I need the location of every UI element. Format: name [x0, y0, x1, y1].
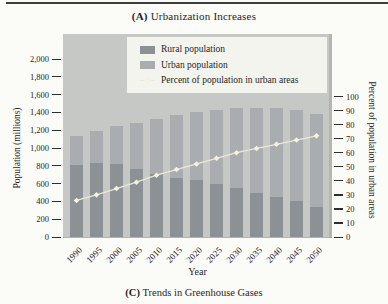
x-tick-label: 2015 — [164, 245, 184, 265]
y-axis-right-title: Percent of population in urban areas — [367, 81, 377, 218]
percent-line-marker — [134, 179, 140, 185]
legend-item-urban: Urban population — [140, 59, 327, 72]
x-tick-label: 2000 — [104, 245, 124, 265]
chart-title-text: Urbanization Increases — [151, 10, 257, 22]
x-tick-label: 2005 — [124, 245, 144, 265]
y-left-tickmark — [52, 59, 61, 60]
percent-line-marker — [194, 161, 200, 167]
x-tick-label: 2045 — [284, 245, 304, 265]
y-left-tick-label: 1,600 — [10, 90, 49, 100]
percent-line-marker — [114, 186, 120, 192]
legend-label-rural: Rural population — [161, 43, 225, 56]
y-left-tickmark — [52, 130, 61, 131]
x-tick-label: 2035 — [244, 245, 264, 265]
x-tick-label: 2040 — [264, 245, 284, 265]
x-tick-label: 2050 — [304, 245, 324, 265]
legend-item-percent: Percent of population in urban areas — [140, 74, 327, 87]
percent-line-marker — [314, 133, 320, 139]
y-left-tickmark — [52, 148, 61, 149]
percent-line-marker — [154, 172, 160, 178]
figure-panel: (A) Urbanization Increases 0200400600800… — [0, 0, 388, 304]
y-right-tickmark — [334, 222, 343, 223]
x-tick-label: 2020 — [184, 245, 204, 265]
percent-line-marker — [294, 137, 300, 143]
percent-line — [77, 136, 317, 201]
y-right-tick-label: 0 — [346, 232, 372, 242]
y-left-tick-label: 400 — [10, 196, 49, 206]
y-right-tick-label: 10 — [346, 218, 372, 228]
percent-line-marker — [274, 141, 280, 147]
x-tick-label: 1990 — [64, 245, 84, 265]
y-right-tickmark — [334, 180, 343, 181]
chart-title: (A) Urbanization Increases — [0, 10, 388, 22]
percent-line-marker — [234, 150, 240, 156]
y-left-tickmark — [52, 183, 61, 184]
legend-item-rural: Rural population — [140, 43, 327, 56]
y-left-tick-label: 200 — [10, 214, 49, 224]
y-left-tickmark — [52, 94, 61, 95]
rural-swatch-icon — [140, 46, 155, 54]
legend-label-percent: Percent of population in urban areas — [161, 74, 298, 87]
y-right-tickmark — [334, 138, 343, 139]
percent-line-swatch-icon — [140, 76, 155, 85]
y-left-tickmark — [52, 237, 61, 238]
y-left-tickmark — [52, 76, 61, 77]
y-right-tickmark — [334, 237, 343, 238]
x-tick-label: 1995 — [84, 245, 104, 265]
divider-rule — [6, 2, 388, 4]
caption-panel-c: (C) Trends in Greenhouse Gases — [0, 287, 388, 298]
percent-line-marker — [174, 167, 180, 173]
legend-label-urban: Urban population — [161, 59, 228, 72]
urban-swatch-icon — [140, 61, 155, 69]
legend: Rural population Urban population Percen… — [127, 37, 327, 93]
y-left-tickmark — [52, 165, 61, 166]
caption-prefix: (C) — [125, 287, 140, 298]
caption-text: Trends in Greenhouse Gases — [143, 287, 263, 298]
y-right-tickmark — [334, 166, 343, 167]
percent-line-marker — [214, 156, 220, 162]
percent-line-marker — [254, 146, 260, 152]
percent-line-marker — [74, 198, 80, 204]
y-left-tickmark — [52, 112, 61, 113]
y-axis-left-title: Population (millions) — [12, 107, 22, 188]
y-left-tickmark — [52, 219, 61, 220]
y-right-tickmark — [334, 124, 343, 125]
y-left-tick-label: 2,000 — [10, 54, 49, 64]
y-left-tick-label: 1,800 — [10, 72, 49, 82]
y-right-tickmark — [334, 152, 343, 153]
y-right-tickmark — [334, 194, 343, 195]
y-left-tickmark — [52, 201, 61, 202]
y-right-tickmark — [334, 110, 343, 111]
x-tick-label: 2030 — [224, 245, 244, 265]
chart-title-prefix: (A) — [132, 10, 148, 22]
x-tick-label: 2010 — [144, 245, 164, 265]
y-right-tickmark — [334, 208, 343, 209]
y-right-tickmark — [334, 96, 343, 97]
y-left-tick-label: 0 — [10, 232, 49, 242]
x-axis-title: Year — [63, 266, 332, 277]
x-tick-label: 2025 — [204, 245, 224, 265]
percent-line-marker — [94, 192, 100, 198]
